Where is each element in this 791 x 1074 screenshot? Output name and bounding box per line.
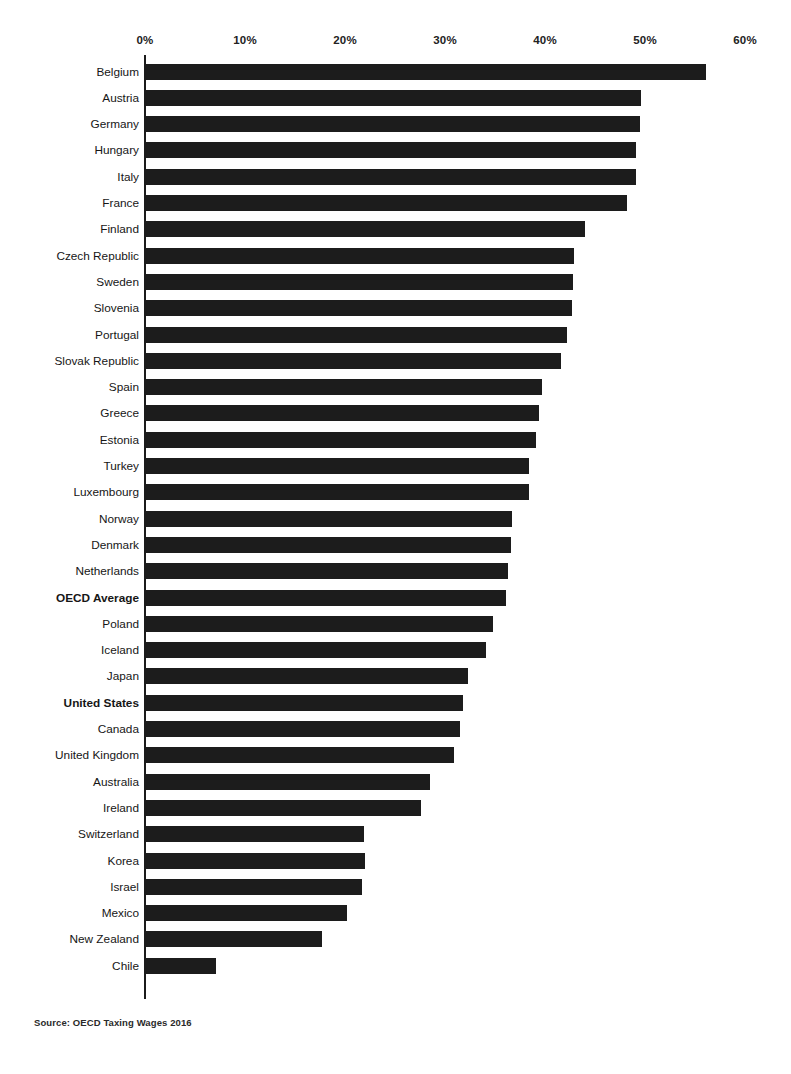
bar-row: Luxembourg — [0, 479, 791, 505]
bar-rect — [146, 590, 506, 606]
bar-category-label: Italy — [117, 164, 139, 190]
bar-category-label: Slovenia — [94, 295, 139, 321]
bar-category-label: Czech Republic — [56, 243, 139, 269]
x-axis-tick-60: 60% — [733, 34, 757, 46]
bar-rect — [146, 90, 641, 106]
bar-rect — [146, 300, 572, 316]
bar-row: Slovenia — [0, 295, 791, 321]
bar-category-label: Chile — [112, 953, 139, 979]
bar-row: Sweden — [0, 269, 791, 295]
bar-row: Japan — [0, 663, 791, 689]
x-axis-tick-50: 50% — [633, 34, 657, 46]
bar-rect — [146, 879, 362, 895]
bar-category-label: Denmark — [91, 532, 139, 558]
bar-row: Hungary — [0, 137, 791, 163]
bar-row: Chile — [0, 953, 791, 979]
bar-row: Denmark — [0, 532, 791, 558]
x-axis-tick-30: 30% — [433, 34, 457, 46]
bar-category-label: Austria — [102, 85, 139, 111]
bar-category-label: Greece — [100, 400, 139, 426]
bar-category-label: Ireland — [103, 795, 139, 821]
bar-category-label: Germany — [90, 111, 139, 137]
bar-rect — [146, 274, 573, 290]
bar-rect — [146, 248, 574, 264]
bar-rect — [146, 800, 421, 816]
bar-category-label: New Zealand — [69, 926, 139, 952]
bar-category-label: France — [102, 190, 139, 216]
bar-rect — [146, 195, 627, 211]
bar-row: Switzerland — [0, 821, 791, 847]
bar-row: Austria — [0, 85, 791, 111]
bar-category-label: Switzerland — [78, 821, 139, 847]
bar-category-label: Israel — [110, 874, 139, 900]
bar-rect — [146, 853, 365, 869]
bar-rect — [146, 353, 561, 369]
bar-category-label: Canada — [98, 716, 139, 742]
source-note: Source: OECD Taxing Wages 2016 — [34, 1017, 192, 1028]
bar-category-label: Finland — [100, 216, 139, 242]
bar-row: Portugal — [0, 322, 791, 348]
bar-category-label: Iceland — [101, 637, 139, 663]
bar-rect — [146, 774, 430, 790]
bar-rect — [146, 458, 529, 474]
bar-row: Norway — [0, 506, 791, 532]
bar-row: Germany — [0, 111, 791, 137]
bar-rect — [146, 563, 508, 579]
x-axis-tick-10: 10% — [233, 34, 257, 46]
bar-category-label: Mexico — [102, 900, 139, 926]
bar-rect — [146, 958, 216, 974]
bar-category-label: Norway — [99, 506, 139, 532]
bar-rect — [146, 484, 529, 500]
x-axis-tick-40: 40% — [533, 34, 557, 46]
bar-row: Australia — [0, 769, 791, 795]
bar-category-label: Estonia — [100, 427, 139, 453]
bar-rect — [146, 695, 463, 711]
bar-category-label: Luxembourg — [73, 479, 139, 505]
bar-category-label: Japan — [107, 663, 139, 689]
bar-row: Finland — [0, 216, 791, 242]
bar-row: Mexico — [0, 900, 791, 926]
bar-rect — [146, 142, 636, 158]
bar-category-label: Spain — [109, 374, 139, 400]
bar-category-label: Hungary — [94, 137, 139, 163]
bar-row: New Zealand — [0, 926, 791, 952]
bar-row: Canada — [0, 716, 791, 742]
bar-row: Turkey — [0, 453, 791, 479]
bar-row: Italy — [0, 164, 791, 190]
bar-row: United Kingdom — [0, 742, 791, 768]
bar-row: OECD Average — [0, 585, 791, 611]
bar-category-label: Slovak Republic — [54, 348, 139, 374]
bar-row: Slovak Republic — [0, 348, 791, 374]
bar-rect — [146, 405, 539, 421]
bar-rect — [146, 511, 512, 527]
bar-rect — [146, 721, 460, 737]
bar-category-label: United States — [64, 690, 139, 716]
bar-rect — [146, 221, 585, 237]
bar-rect — [146, 668, 468, 684]
plot-area: BelgiumAustriaGermanyHungaryItalyFranceF… — [0, 55, 791, 1000]
bar-row: Iceland — [0, 637, 791, 663]
bar-rect — [146, 826, 364, 842]
bar-category-label: OECD Average — [56, 585, 139, 611]
bar-rect — [146, 616, 493, 632]
bar-row: Belgium — [0, 59, 791, 85]
bar-rect — [146, 379, 542, 395]
bar-category-label: Sweden — [96, 269, 139, 295]
bar-category-label: Belgium — [96, 59, 139, 85]
bar-rect — [146, 432, 536, 448]
bar-row: Poland — [0, 611, 791, 637]
bar-category-label: Korea — [108, 848, 139, 874]
bar-rect — [146, 642, 486, 658]
bar-rect — [146, 537, 511, 553]
x-axis-tick-labels: 0%10%20%30%40%50%60% — [0, 34, 791, 52]
x-axis-tick-0: 0% — [136, 34, 153, 46]
bar-row: Czech Republic — [0, 243, 791, 269]
bar-rect — [146, 931, 322, 947]
bar-rect — [146, 747, 454, 763]
bar-category-label: Poland — [102, 611, 139, 637]
bar-row: France — [0, 190, 791, 216]
bar-row: Greece — [0, 400, 791, 426]
x-axis-tick-20: 20% — [333, 34, 357, 46]
bar-row: Spain — [0, 374, 791, 400]
bar-row: Netherlands — [0, 558, 791, 584]
